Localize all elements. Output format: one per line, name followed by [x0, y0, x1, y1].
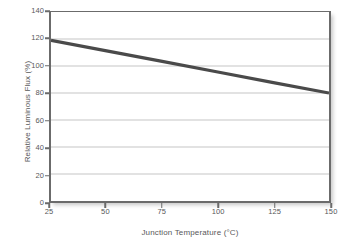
y-tick-label-120: 120 [31, 35, 44, 43]
x-tick-label-125: 125 [268, 208, 281, 216]
data-series-line [51, 12, 329, 201]
y-tick-label-0: 0 [40, 199, 44, 207]
chart-container: 0 20 40 60 80 100 120 140 [0, 0, 355, 251]
x-tick-label-25: 25 [45, 208, 54, 216]
y-tick-label-140: 140 [31, 7, 44, 15]
plot-area [49, 11, 331, 203]
y-tick-label-100: 100 [31, 62, 44, 70]
x-tick-label-75: 75 [158, 208, 167, 216]
x-tick-label-50: 50 [101, 208, 110, 216]
y-tick-label-20: 20 [35, 172, 44, 180]
y-axis-title: Relative Luminous Flux (%) [23, 37, 32, 187]
x-tick-label-100: 100 [212, 208, 225, 216]
x-axis-tick-labels: 25 50 75 100 125 150 [49, 208, 331, 220]
x-tick-label-150: 150 [325, 208, 338, 216]
y-tick-label-80: 80 [35, 90, 44, 98]
y-tick-label-60: 60 [35, 117, 44, 125]
x-axis-title: Junction Temperature (°C) [49, 228, 331, 237]
y-tick-label-40: 40 [35, 144, 44, 152]
